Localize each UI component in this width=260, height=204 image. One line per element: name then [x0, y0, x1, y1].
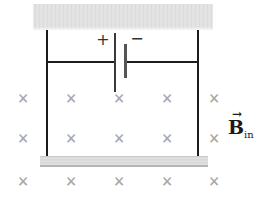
field-cross-icon: ×: [208, 131, 220, 145]
battery-minus-label: −: [130, 31, 143, 47]
battery-negative-plate: [124, 44, 127, 78]
field-cross-icon: ×: [161, 174, 173, 188]
battery-plus-label: +: [96, 32, 109, 48]
field-cross-icon: ×: [65, 131, 77, 145]
top-wire-left-segment: [46, 61, 116, 63]
field-cross-icon: ×: [208, 91, 220, 105]
field-cross-icon: ×: [113, 91, 125, 105]
conducting-rod: [40, 156, 208, 167]
field-cross-icon: ×: [113, 174, 125, 188]
field-cross-icon: ×: [161, 131, 173, 145]
field-cross-icon: ×: [17, 131, 29, 145]
b-field-symbol: Bin: [228, 119, 254, 143]
ceiling-support: [33, 4, 213, 30]
field-cross-icon: ×: [65, 91, 77, 105]
field-cross-icon: ×: [17, 91, 29, 105]
field-cross-icon: ×: [161, 91, 173, 105]
right-wire: [197, 30, 199, 157]
physics-diagram: ××××××××××××××× + − → Bin: [0, 0, 260, 204]
field-cross-icon: ×: [17, 174, 29, 188]
b-subscript: in: [244, 129, 254, 140]
battery-positive-plate: [114, 33, 116, 92]
left-wire: [46, 30, 48, 157]
b-symbol: B: [228, 116, 244, 138]
field-cross-icon: ×: [65, 174, 77, 188]
field-cross-icon: ×: [208, 174, 220, 188]
b-field-label: → Bin: [228, 110, 254, 143]
field-cross-icon: ×: [113, 131, 125, 145]
top-wire-right-segment: [125, 61, 199, 63]
